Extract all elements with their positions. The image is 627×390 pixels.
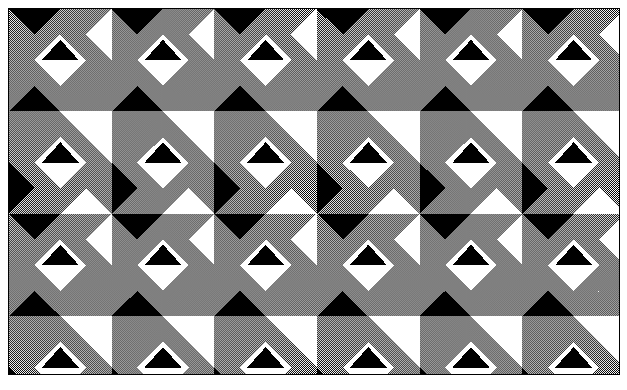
tiling-pattern-svg — [9, 9, 619, 374]
tile-group — [9, 9, 619, 374]
border-frame — [8, 8, 620, 375]
artwork-canvas — [0, 0, 627, 390]
